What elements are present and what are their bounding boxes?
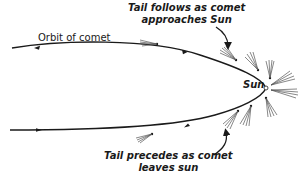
leaves-label: Tail precedes as comet leaves sun <box>104 150 233 174</box>
orbit-label: Orbit of comet <box>38 32 110 44</box>
direction-arrow-icon <box>36 128 42 132</box>
direction-arrow-icon <box>34 46 40 50</box>
sun-label: Sun <box>243 79 264 91</box>
comet-tail-icon <box>136 133 153 143</box>
leaves-label-line2: leaves sun <box>104 162 233 174</box>
comet-tail-icon <box>265 97 277 117</box>
approach-label-line1: Tail follows as comet <box>128 2 245 14</box>
comet-tail-icon <box>220 46 237 61</box>
comet-tail-icon <box>240 105 252 126</box>
comet-tail-icon <box>271 71 295 85</box>
comet-tail-icon <box>266 60 274 79</box>
orbit-path <box>10 42 266 130</box>
sun-icon <box>264 86 268 90</box>
comet-tail-icon <box>271 89 298 98</box>
direction-arrow-icon <box>184 124 190 128</box>
comet-tail-icon <box>245 52 259 71</box>
comet-tail-icon <box>223 110 239 129</box>
approach-label: Tail follows as comet approaches Sun <box>128 2 245 26</box>
approach-label-line2: approaches Sun <box>128 14 245 26</box>
comet-orbit-diagram: Orbit of comet Tail follows as comet app… <box>0 0 307 178</box>
pointer-arrow-approach-icon <box>216 27 228 46</box>
leaves-label-line1: Tail precedes as comet <box>104 150 233 162</box>
